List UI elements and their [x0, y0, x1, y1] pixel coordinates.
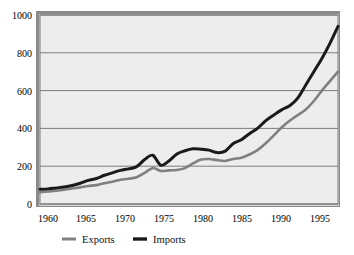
x-tick-1970: 1970	[115, 213, 135, 224]
y-tick-800: 800	[17, 48, 32, 59]
x-tick-1965: 1965	[76, 213, 96, 224]
y-tick-1000: 1000	[12, 10, 32, 21]
legend-label-exports: Exports	[82, 234, 115, 245]
x-tick-1975: 1975	[154, 213, 174, 224]
x-tick-1960: 1960	[38, 213, 58, 224]
y-tick-400: 400	[17, 123, 32, 134]
x-tick-1985: 1985	[232, 213, 252, 224]
x-axis-labels: 1960 1965 1970 1975 1980 1985 1990 1995	[38, 213, 330, 224]
x-tick-1990: 1990	[271, 213, 291, 224]
y-tick-600: 600	[17, 86, 32, 97]
chart-canvas: 1000 800 600 400 200 0 1960 1965 1970 19…	[0, 0, 354, 255]
y-tick-200: 200	[17, 161, 32, 172]
chart-legend: Exports Imports	[62, 234, 186, 245]
plot-background	[40, 15, 338, 204]
y-tick-0: 0	[27, 199, 32, 210]
x-tick-1980: 1980	[193, 213, 213, 224]
y-axis-labels: 1000 800 600 400 200 0	[12, 10, 32, 210]
line-chart: 1000 800 600 400 200 0 1960 1965 1970 19…	[0, 0, 354, 255]
legend-label-imports: Imports	[153, 234, 186, 245]
plot-frame	[36, 11, 340, 207]
x-tick-1995: 1995	[310, 213, 330, 224]
